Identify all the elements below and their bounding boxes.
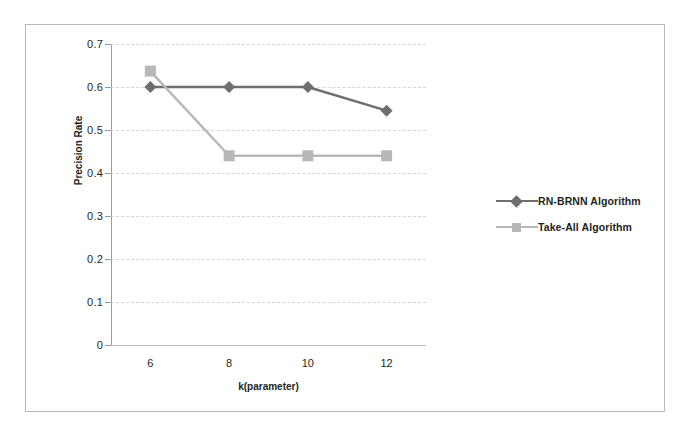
y-axis-tick-label: 0.1 <box>59 296 103 308</box>
series-lines <box>111 44 426 345</box>
data-point-marker <box>302 81 314 93</box>
x-axis-tick-label: 8 <box>209 357 249 369</box>
y-axis-tick-label: 0.6 <box>59 81 103 93</box>
gridline <box>111 345 426 346</box>
data-point-marker <box>223 81 235 93</box>
series-line <box>150 71 386 156</box>
data-point-marker <box>381 150 392 161</box>
chart-legend: RN-BRNN Algorithm Take-All Algorithm <box>496 188 661 240</box>
x-axis-tick-label: 6 <box>130 357 170 369</box>
legend-item-rn-brnn[interactable]: RN-BRNN Algorithm <box>496 188 661 214</box>
figure-frame: Precision Rate 00.10.20.30.40.50.60.7 68… <box>25 24 665 412</box>
legend-label: RN-BRNN Algorithm <box>538 195 641 207</box>
x-axis-tick-label: 12 <box>367 357 407 369</box>
legend-item-take-all[interactable]: Take-All Algorithm <box>496 214 661 240</box>
legend-marker-diamond-icon <box>496 194 538 208</box>
data-point-marker <box>381 105 393 117</box>
y-axis-tick-label: 0.7 <box>59 38 103 50</box>
y-axis-tick-label: 0.2 <box>59 253 103 265</box>
y-axis-title: Precision Rate <box>73 91 84 211</box>
legend-marker-square-icon <box>496 220 538 234</box>
y-axis-tick-label: 0.3 <box>59 210 103 222</box>
data-point-marker <box>145 66 156 77</box>
data-point-marker <box>144 81 156 93</box>
y-axis-tick-label: 0.4 <box>59 167 103 179</box>
x-axis-tick-label: 10 <box>288 357 328 369</box>
legend-label: Take-All Algorithm <box>538 221 632 233</box>
plot-area <box>111 44 426 345</box>
data-point-marker <box>302 150 313 161</box>
y-axis-tick-label: 0.5 <box>59 124 103 136</box>
y-axis-tick-label: 0 <box>59 339 103 351</box>
x-axis-title: k(parameter) <box>111 381 426 392</box>
series-line <box>150 87 386 111</box>
data-point-marker <box>224 150 235 161</box>
